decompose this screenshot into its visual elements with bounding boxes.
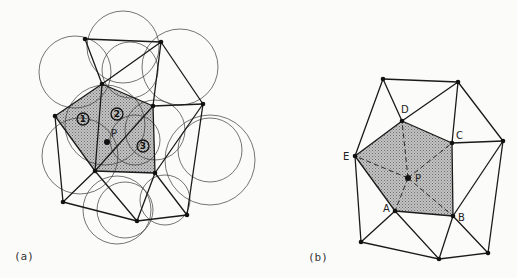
vertex: [353, 154, 358, 159]
edge: [155, 173, 187, 215]
point-p-a: [104, 139, 110, 145]
vertex: [185, 213, 190, 218]
edge: [383, 79, 402, 121]
edge: [453, 141, 503, 216]
edge: [85, 39, 161, 42]
edge: [361, 242, 439, 259]
edge: [439, 216, 453, 259]
edge: [355, 156, 361, 242]
vertex: [359, 240, 364, 245]
point-p-label-a: P: [111, 128, 117, 139]
vertex-label-d: D: [401, 104, 409, 115]
shaded-cavity-b: [355, 121, 453, 216]
edge: [488, 141, 503, 253]
vertex: [83, 37, 88, 42]
circumcircle: [165, 115, 255, 205]
vertex: [451, 214, 456, 219]
panel-b-cavity: P A B C D E (b): [308, 77, 505, 264]
edge: [102, 42, 161, 84]
circumcircle: [142, 29, 218, 105]
edge: [361, 211, 395, 242]
vertex: [151, 104, 156, 109]
panel-a-circumcircles: P 1 2 3 (a): [14, 11, 255, 263]
caption-b: (b): [308, 251, 328, 264]
edge: [161, 42, 203, 104]
vertex-label-b: B: [458, 212, 465, 223]
vertex: [393, 209, 398, 214]
vertex: [400, 119, 405, 124]
vertex: [100, 82, 105, 87]
edge: [187, 104, 203, 215]
circumcircle: [178, 118, 242, 182]
edge: [63, 202, 137, 221]
edge: [402, 82, 458, 121]
edge: [153, 42, 161, 106]
vertex: [381, 77, 386, 82]
circumcircle: [97, 182, 153, 238]
vertex: [153, 171, 158, 176]
svg-text:3: 3: [140, 141, 146, 151]
svg-text:1: 1: [80, 114, 86, 124]
vertex: [93, 169, 98, 174]
edge: [55, 116, 63, 202]
vertex: [450, 141, 455, 146]
delaunay-figure: P 1 2 3 (a) P A B C D E (b): [0, 0, 517, 278]
vertex: [501, 139, 506, 144]
vertex: [456, 80, 461, 85]
vertex-label-e: E: [343, 151, 349, 162]
edge: [153, 104, 203, 106]
vertex: [159, 40, 164, 45]
vertex: [486, 251, 491, 256]
vertex: [437, 257, 442, 262]
caption-a: (a): [14, 250, 34, 263]
edge: [137, 173, 155, 221]
edge: [95, 171, 137, 221]
vertex: [135, 219, 140, 224]
svg-text:2: 2: [114, 109, 120, 119]
edge: [458, 82, 503, 141]
edge: [452, 141, 503, 143]
edge: [395, 211, 439, 259]
edge: [155, 104, 203, 173]
edge: [63, 171, 95, 202]
point-p-b: [405, 175, 411, 181]
point-p-label-b: P: [415, 173, 421, 184]
vertex: [53, 114, 58, 119]
vertex: [61, 200, 66, 205]
vertex-label-c: C: [456, 130, 463, 141]
edge: [439, 253, 488, 259]
vertex: [201, 102, 206, 107]
edge: [383, 79, 458, 82]
vertex-label-a: A: [383, 203, 390, 214]
